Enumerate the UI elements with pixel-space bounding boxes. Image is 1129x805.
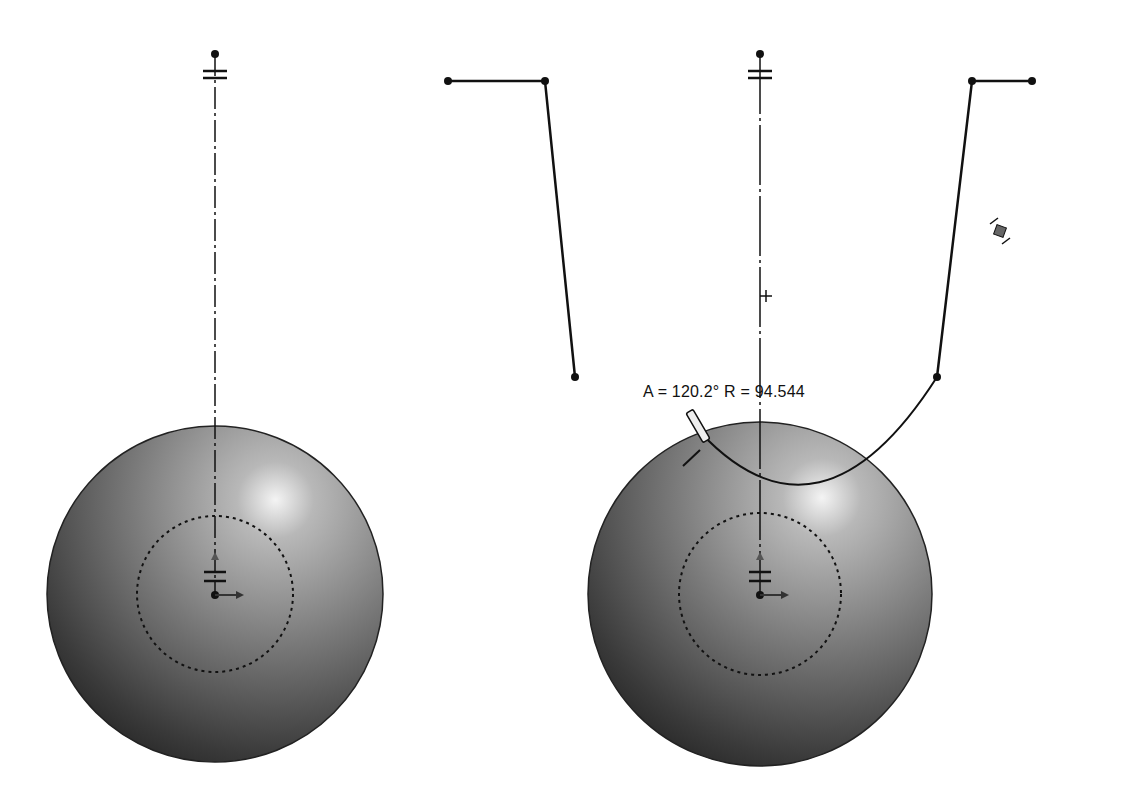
right-sketch-view bbox=[588, 50, 1036, 766]
centerline-endpoint[interactable] bbox=[756, 50, 764, 58]
sketch-point[interactable] bbox=[571, 373, 579, 381]
arc-dimension-label: A = 120.2° R = 94.544 bbox=[643, 383, 805, 401]
cad-sketch-canvas[interactable]: A = 120.2° R = 94.544 bbox=[0, 0, 1129, 805]
centerline-endpoint[interactable] bbox=[211, 50, 219, 58]
sketch-point[interactable] bbox=[968, 77, 976, 85]
midpoint-constraint-icon bbox=[990, 218, 1010, 244]
left-sketch-view bbox=[47, 50, 579, 762]
sketch-point[interactable] bbox=[541, 77, 549, 85]
sketch-graphics bbox=[0, 0, 1129, 805]
sketch-point[interactable] bbox=[1028, 77, 1036, 85]
sketch-point[interactable] bbox=[444, 77, 452, 85]
cursor-crosshair-icon bbox=[760, 290, 772, 302]
profile-polyline[interactable] bbox=[937, 81, 1032, 377]
profile-polyline[interactable] bbox=[448, 81, 575, 377]
